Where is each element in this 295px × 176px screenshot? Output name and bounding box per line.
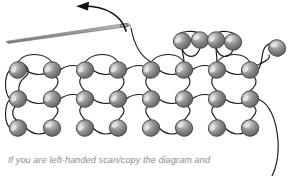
thread-top-arc-2 — [85, 55, 118, 63]
beads-middle-row — [7, 88, 261, 109]
needle-shaft — [6, 23, 131, 43]
thread-top-arc-3 — [151, 55, 184, 63]
thread-left-edge-1 — [6, 70, 11, 99]
beads-top-row — [172, 30, 243, 51]
beading-diagram-svg — [0, 0, 295, 176]
diagram-canvas: If you are left-handed scan/copy the dia… — [0, 0, 295, 176]
thread-left-edge-2 — [6, 99, 11, 128]
beads-upper-row — [7, 60, 260, 81]
arrow-head — [76, 2, 89, 11]
needle-group — [6, 23, 131, 43]
beads-bottom-row — [7, 117, 261, 138]
thread-topcluster-1 — [182, 48, 200, 56]
thread-top-arc-1 — [18, 55, 52, 63]
thread-from-needle — [131, 28, 151, 62]
figure-caption: If you are left-handed scan/copy the dia… — [8, 155, 288, 165]
